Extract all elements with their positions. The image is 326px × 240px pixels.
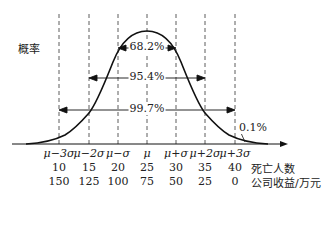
deaths-value: 15: [82, 161, 96, 174]
deaths-value: 30: [169, 161, 183, 174]
deaths-value: 40: [228, 161, 242, 174]
x-axis-arrow-icon: [280, 141, 288, 147]
tail-annotation: 0.1%: [238, 121, 268, 134]
deaths-value: 25: [140, 161, 154, 174]
revenue-value: 0: [232, 175, 239, 188]
deaths-value: 20: [111, 161, 125, 174]
revenue-value: 25: [198, 175, 212, 188]
revenue-value: 75: [140, 175, 154, 188]
tick-sigma: μ: [143, 147, 150, 160]
y-axis-label: 概率: [18, 40, 40, 56]
tick-sigma: μ−σ: [106, 147, 130, 160]
revenue-value: 50: [169, 175, 183, 188]
revenue-value: 150: [49, 175, 70, 188]
tick-sigma: μ−3σ: [44, 147, 75, 160]
revenue-value: 100: [108, 175, 129, 188]
interval-68: 68.2%: [129, 40, 166, 53]
tick-sigma: μ+2σ: [190, 147, 221, 160]
interval-95: 95.4%: [129, 70, 166, 83]
tick-sigma: μ+σ: [164, 147, 188, 160]
tick-sigma: μ+3σ: [220, 147, 251, 160]
interval-99: 99.7%: [129, 102, 166, 115]
revenue-row-label: 公司收益/万元: [251, 174, 321, 190]
tick-sigma: μ−2σ: [74, 147, 105, 160]
deaths-value: 10: [52, 161, 66, 174]
deaths-value: 35: [198, 161, 212, 174]
revenue-value: 125: [79, 175, 100, 188]
